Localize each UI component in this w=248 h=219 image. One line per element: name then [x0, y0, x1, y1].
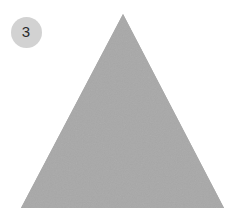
figure-canvas: 3	[0, 0, 248, 219]
triangle-shape-texture	[21, 14, 224, 208]
index-badge-label: 3	[22, 24, 30, 40]
index-badge: 3	[11, 17, 42, 48]
